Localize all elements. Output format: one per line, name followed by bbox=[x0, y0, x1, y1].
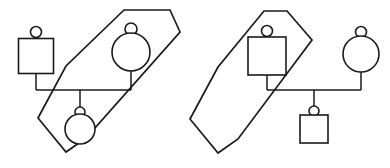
left-parent-square-node[interactable] bbox=[19, 27, 54, 91]
right-parent-circle-node[interactable] bbox=[343, 27, 379, 91]
square-symbol-icon[interactable] bbox=[19, 39, 54, 74]
diagram-canvas: Pedigree diagram with two diagonal hexag… bbox=[0, 0, 390, 168]
pedigree-diagram bbox=[0, 0, 390, 168]
square-symbol-icon[interactable] bbox=[300, 115, 328, 143]
hexagon-grouping-icon-right bbox=[190, 11, 312, 153]
right-parent-square-node[interactable] bbox=[248, 26, 286, 91]
left-child-circle-node[interactable] bbox=[65, 107, 95, 144]
group-right bbox=[190, 11, 379, 153]
circle-symbol-icon[interactable] bbox=[112, 33, 150, 71]
square-symbol-icon[interactable] bbox=[248, 37, 286, 75]
circle-symbol-icon[interactable] bbox=[343, 36, 379, 72]
hexagon-grouping-icon-left bbox=[38, 10, 180, 152]
small-circle-knob-icon bbox=[31, 27, 42, 38]
right-child-square-node[interactable] bbox=[300, 106, 328, 143]
small-circle-knob-icon bbox=[262, 26, 273, 37]
left-parent-circle-node[interactable] bbox=[112, 23, 150, 90]
group-left bbox=[19, 10, 181, 152]
circle-symbol-icon[interactable] bbox=[65, 114, 95, 144]
